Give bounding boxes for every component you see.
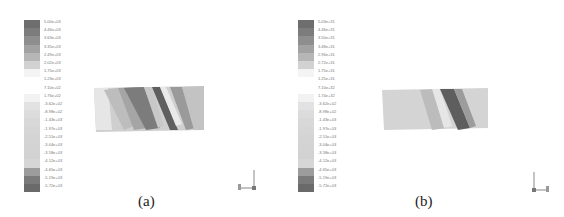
legend-swatch xyxy=(24,159,40,167)
legend-swatch xyxy=(24,110,40,118)
legend-label: -8.98e+02 xyxy=(44,109,62,114)
legend-swatch xyxy=(298,143,314,151)
legend-label: 2.96e+31 xyxy=(318,52,335,57)
legend-label: 1.75e+03 xyxy=(44,68,61,73)
legend-label: 1.76e+02 xyxy=(44,93,61,98)
legend-label: 7.10e+02 xyxy=(44,85,61,90)
legend-label: 2.02e+03 xyxy=(44,60,61,65)
legend-swatch xyxy=(298,151,314,159)
contour-plot xyxy=(88,84,208,134)
legend-swatch xyxy=(24,127,40,135)
legend-swatch xyxy=(298,168,314,176)
legend-label: 1.23e+03 xyxy=(44,76,61,81)
legend-swatch xyxy=(298,94,314,102)
legend-label: 3.35e+03 xyxy=(44,44,61,49)
legend-swatch xyxy=(24,143,40,151)
legend-label: -1.97e+03 xyxy=(318,126,336,131)
legend-label: -8.98e+02 xyxy=(318,109,336,114)
legend-label: -2.51e+03 xyxy=(44,134,62,139)
legend-swatch xyxy=(24,28,40,36)
legend-label: -5.72e+03 xyxy=(318,183,336,188)
legend-label: -1.43e+03 xyxy=(318,117,336,122)
legend-label: -3.62e+02 xyxy=(44,101,62,106)
legend-swatch xyxy=(24,135,40,143)
legend-swatch xyxy=(298,127,314,135)
legend-swatch xyxy=(298,28,314,36)
legend-swatch xyxy=(298,61,314,69)
legend-swatch xyxy=(298,102,314,110)
panel-caption: (a) xyxy=(138,193,155,210)
legend-swatch xyxy=(298,86,314,94)
legend-label: 3.48e+31 xyxy=(318,44,335,49)
legend-label: 3.63e+03 xyxy=(44,35,61,40)
legend-label: 1.75e+31 xyxy=(318,68,335,73)
legend-label: 1.74e+32 xyxy=(318,93,335,98)
panel-a: 5.00e+034.46e+033.63e+033.35e+032.49e+03… xyxy=(0,0,282,217)
legend-label: 5.03e+31 xyxy=(318,19,335,24)
legend-swatch xyxy=(24,53,40,61)
legend-swatch xyxy=(298,159,314,167)
legend-label: 4.46e+03 xyxy=(44,27,61,32)
legend-label: -3.58e+03 xyxy=(44,150,62,155)
legend-swatch xyxy=(298,69,314,77)
legend-label: 4.46e+31 xyxy=(318,27,335,32)
legend-swatch xyxy=(24,176,40,184)
legend-swatch xyxy=(298,36,314,44)
legend-label: -4.65e+03 xyxy=(318,167,336,172)
legend-label: -3.04e+03 xyxy=(318,142,336,147)
legend-label: -5.19e+03 xyxy=(318,175,336,180)
legend-swatch xyxy=(298,118,314,126)
legend-swatch xyxy=(24,151,40,159)
legend-label: -4.12e+03 xyxy=(318,158,336,163)
legend-label: 3.50e+31 xyxy=(318,35,335,40)
legend-label: -1.97e+03 xyxy=(44,126,62,131)
legend-label: 7.10e+32 xyxy=(318,85,335,90)
legend-label: -3.62e+02 xyxy=(318,101,336,106)
legend-swatch xyxy=(298,184,314,192)
legend-swatch xyxy=(298,110,314,118)
legend-label: -2.51e+03 xyxy=(318,134,336,139)
legend-swatch xyxy=(298,176,314,184)
legend-swatch xyxy=(298,77,314,85)
legend-label: -4.65e+03 xyxy=(44,167,62,172)
legend-swatch xyxy=(24,168,40,176)
legend-swatch xyxy=(24,69,40,77)
legend-swatch xyxy=(24,36,40,44)
panel-b: 5.03e+314.46e+313.50e+313.48e+312.96e+31… xyxy=(282,0,564,217)
axis-triad-icon xyxy=(230,168,260,194)
legend-label: -3.58e+03 xyxy=(318,150,336,155)
legend-swatch xyxy=(24,77,40,85)
legend-swatch xyxy=(24,94,40,102)
legend-swatch xyxy=(298,45,314,53)
legend-swatch xyxy=(24,86,40,94)
panel-caption: (b) xyxy=(415,193,433,210)
axis-triad-icon xyxy=(524,170,554,196)
legend-label: -4.12e+03 xyxy=(44,158,62,163)
legend-swatch xyxy=(298,53,314,61)
legend-label: -5.72e+03 xyxy=(44,183,62,188)
legend-swatch xyxy=(24,20,40,28)
legend-label: 2.49e+03 xyxy=(44,52,61,57)
legend-swatch xyxy=(24,118,40,126)
legend-swatch xyxy=(298,20,314,28)
legend-label: 2.72e+31 xyxy=(318,60,335,65)
legend-swatch xyxy=(24,184,40,192)
legend-swatch xyxy=(24,61,40,69)
legend-label: -1.43e+03 xyxy=(44,117,62,122)
legend-label: 5.00e+03 xyxy=(44,19,61,24)
legend-label: -3.04e+03 xyxy=(44,142,62,147)
contour-plot xyxy=(380,86,490,134)
legend-label: 1.25e+31 xyxy=(318,76,335,81)
legend-swatch xyxy=(24,45,40,53)
legend-label: -5.19e+03 xyxy=(44,175,62,180)
legend-swatch xyxy=(24,102,40,110)
legend-swatch xyxy=(298,135,314,143)
